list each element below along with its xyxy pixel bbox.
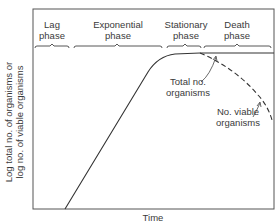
brace-lag [35,44,69,48]
phase-lag-label-2: phase [39,30,65,41]
phase-exponential-label-1: Exponential [93,19,143,30]
y-axis-label-1: Log total no. of organisms or [3,62,14,182]
phase-braces [35,44,271,48]
brace-death [204,44,271,48]
annotation-viable-2: organisms [216,117,260,128]
phase-lag-label-1: Lag [44,19,60,30]
phase-exponential-label-2: phase [105,30,131,41]
growth-curve-diagram: Lag phase Exponential phase Stationary p… [0,0,276,224]
brace-exponential [74,44,162,48]
phase-death-label-1: Death [224,19,249,30]
phase-death-label-2: phase [224,30,250,41]
y-axis-label-2: log no. of viable organisms [14,65,25,178]
x-axis-label: Time [143,212,164,223]
annotation-total-2: organisms [166,87,210,98]
brace-stationary [167,44,201,48]
phase-stationary-label-2: phase [173,30,199,41]
annotation-viable-1: No. viable [217,106,259,117]
phase-stationary-label-1: Stationary [165,19,208,30]
annotation-total-1: Total no. [170,76,206,87]
